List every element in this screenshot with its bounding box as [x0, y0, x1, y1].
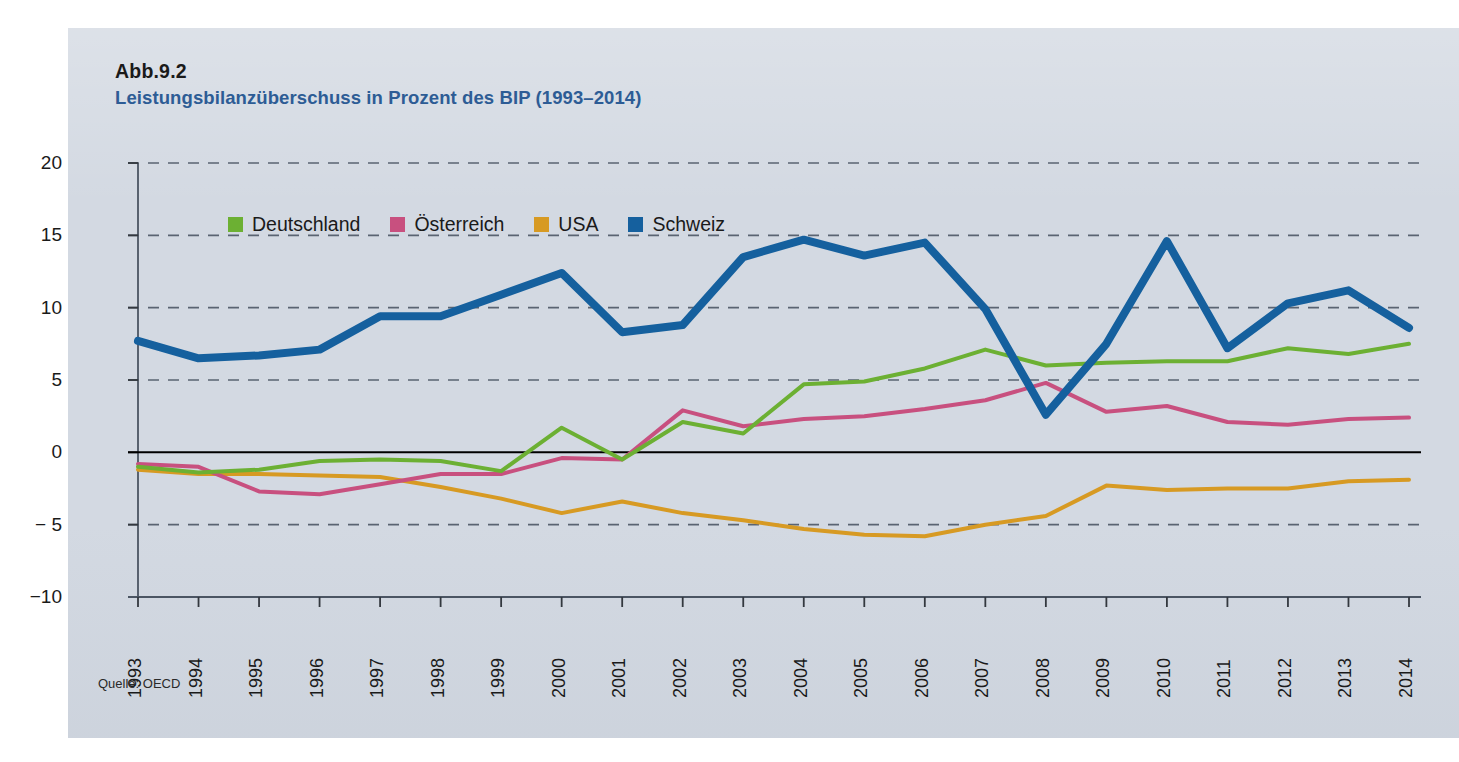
x-axis-tick-label: 2002	[670, 658, 691, 698]
legend-label: Schweiz	[652, 213, 725, 236]
y-axis-tick-label: −10	[16, 586, 62, 608]
figure-panel: Abb.9.2 Leistungsbilanzüberschuss in Pro…	[68, 28, 1459, 738]
x-axis-tick-label: 2003	[730, 658, 751, 698]
x-axis-tick-label: 2008	[1033, 658, 1054, 698]
x-axis-tick-label: 2011	[1214, 659, 1235, 698]
y-axis-tick-label: 0	[16, 441, 62, 463]
x-axis-tick-label: 2010	[1154, 658, 1175, 698]
y-axis-labels: 20151050− 5−10	[6, 163, 62, 597]
x-axis-tick-label: 1997	[367, 658, 388, 698]
x-axis-tick-label: 2005	[851, 658, 872, 698]
legend-label: Deutschland	[252, 213, 360, 236]
x-axis-tick-label: 1995	[246, 658, 267, 698]
x-axis-tick-label: 1999	[488, 658, 509, 698]
legend-swatch-icon	[390, 217, 405, 232]
x-axis-tick-label: 2001	[609, 658, 630, 698]
y-axis-tick-label: − 5	[16, 514, 62, 536]
y-axis-tick-label: 5	[16, 369, 62, 391]
x-axis-tick-label: 2012	[1275, 658, 1296, 698]
x-axis-tick-label: 1994	[186, 658, 207, 698]
x-axis-labels: 1993199419951996199719981999200020012002…	[138, 603, 1409, 698]
x-axis-tick-label: 1998	[428, 658, 449, 698]
legend-swatch-icon	[228, 217, 243, 232]
x-axis-tick-label: 2006	[912, 658, 933, 698]
chart-legend: DeutschlandÖsterreichUSASchweiz	[228, 213, 755, 236]
legend-swatch-icon	[534, 217, 549, 232]
legend-label: USA	[558, 213, 598, 236]
x-axis-tick-label: 2000	[549, 658, 570, 698]
series-line-schweiz	[138, 240, 1409, 415]
x-axis-tick-label: 2013	[1335, 658, 1356, 698]
series-line-usa	[138, 470, 1409, 537]
source-note: Quelle: OECD	[98, 676, 180, 691]
y-axis-tick-label: 15	[16, 224, 62, 246]
figure-page: Abb.9.2 Leistungsbilanzüberschuss in Pro…	[0, 0, 1459, 762]
figure-number: Abb.9.2	[115, 60, 187, 83]
legend-swatch-icon	[628, 217, 643, 232]
x-axis-tick-label: 2009	[1093, 658, 1114, 698]
y-axis-tick-label: 10	[16, 297, 62, 319]
legend-item: USA	[534, 213, 598, 236]
legend-item: Deutschland	[228, 213, 360, 236]
page-title: Leistungsbilanzüberschuss in Prozent des…	[115, 87, 642, 109]
y-axis-tick-label: 20	[16, 152, 62, 174]
legend-item: Schweiz	[628, 213, 725, 236]
x-axis-tick-label: 2007	[972, 658, 993, 698]
legend-label: Österreich	[414, 213, 504, 236]
x-axis-tick-label: 2014	[1396, 658, 1417, 698]
legend-item: Österreich	[390, 213, 504, 236]
x-axis-tick-label: 2004	[791, 658, 812, 698]
x-axis-tick-label: 1996	[307, 658, 328, 698]
